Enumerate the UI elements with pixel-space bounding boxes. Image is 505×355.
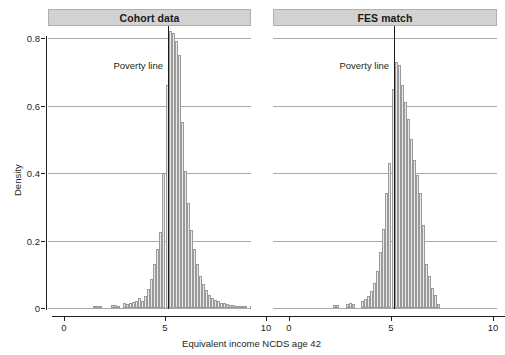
panel-fes-match: Poverty line xyxy=(273,26,497,309)
x-axis-tick-label: 5 xyxy=(388,322,393,333)
x-axis-tick-label: 10 xyxy=(261,322,272,333)
grid-line xyxy=(273,38,497,39)
grid-line xyxy=(48,173,251,174)
x-axis-tick xyxy=(64,317,65,321)
x-axis-tick-label: 10 xyxy=(488,322,499,333)
histogram-bar xyxy=(437,304,440,308)
x-axis-tick xyxy=(289,317,290,321)
x-axis-title: Equivalent income NCDS age 42 xyxy=(0,338,503,349)
x-axis-tick xyxy=(266,317,267,321)
histogram-bar xyxy=(250,306,251,308)
histogram-bar xyxy=(117,306,120,308)
panel-title-left: Cohort data xyxy=(119,12,179,24)
grid-line xyxy=(48,241,251,242)
grid-line xyxy=(273,173,497,174)
x-axis-tick-label: 0 xyxy=(286,322,291,333)
y-axis-tick xyxy=(41,173,45,174)
y-axis-tick-label: 0.2 xyxy=(12,235,40,246)
x-axis-tick-label: 0 xyxy=(61,322,66,333)
y-axis-tick xyxy=(41,106,45,107)
y-axis-tick-label: 0.6 xyxy=(12,100,40,111)
y-axis-tick xyxy=(41,38,45,39)
poverty-line-label: Poverty line xyxy=(339,60,389,71)
y-axis-tick-label: 0.4 xyxy=(12,168,40,179)
poverty-line xyxy=(394,26,395,309)
x-axis-tick-label: 5 xyxy=(162,322,167,333)
histogram-bar xyxy=(352,304,355,308)
histogram-bar xyxy=(244,306,247,308)
grid-line xyxy=(48,106,251,107)
grid-line xyxy=(48,38,251,39)
y-axis-line xyxy=(46,36,47,310)
y-axis-tick-label: 0 xyxy=(12,303,40,314)
panel-cohort-data: Poverty line xyxy=(48,26,251,309)
grid-line xyxy=(273,308,497,309)
plot-area-right: Poverty line xyxy=(273,26,497,309)
histogram-bar xyxy=(99,306,102,308)
grid-line xyxy=(273,106,497,107)
poverty-line xyxy=(168,26,169,309)
y-axis-tick-label: 0.8 xyxy=(12,33,40,44)
histogram-bar xyxy=(336,305,339,308)
poverty-line-label: Poverty line xyxy=(113,60,163,71)
x-axis-tick xyxy=(391,317,392,321)
panel-title-right: FES match xyxy=(357,12,412,24)
panel-strip-right: FES match xyxy=(273,9,497,26)
x-axis-tick xyxy=(165,317,166,321)
plot-area-left: Poverty line xyxy=(48,26,251,309)
y-axis-tick xyxy=(41,241,45,242)
y-axis-tick xyxy=(41,308,45,309)
panel-strip-left: Cohort data xyxy=(48,9,251,26)
x-axis-tick xyxy=(493,317,494,321)
grid-line xyxy=(48,308,251,309)
